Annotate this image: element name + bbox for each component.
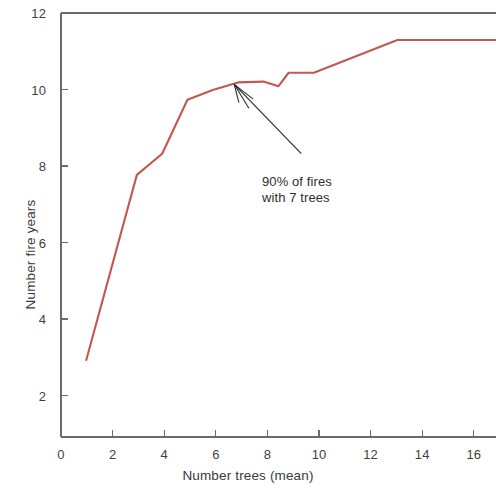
y-tick-label-10: 10: [18, 82, 46, 97]
x-tick-label-0: 0: [57, 447, 64, 462]
x-tick-label-16: 16: [466, 447, 481, 462]
x-tick-label-12: 12: [363, 447, 378, 462]
annotation-line-1: 90% of fires: [262, 174, 332, 190]
y-tick-marks: [61, 13, 68, 396]
y-axis-title: Number fire years: [23, 155, 38, 355]
chart-figure: 12 10 8 6 4 2 0 2 4 6 8 10 12 14 16 Numb…: [0, 0, 496, 491]
chart-plot-area: [0, 0, 496, 491]
x-tick-label-2: 2: [109, 447, 116, 462]
x-tick-marks: [61, 430, 474, 437]
y-tick-label-12: 12: [18, 6, 46, 21]
annotation-callout-text: 90% of fires with 7 trees: [262, 174, 332, 206]
x-tick-label-10: 10: [312, 447, 327, 462]
x-axis-title: Number trees (mean): [0, 468, 496, 483]
x-tick-label-6: 6: [212, 447, 219, 462]
annotation-arrow: [234, 84, 301, 153]
annotation-line-2: with 7 trees: [262, 190, 332, 206]
x-tick-label-8: 8: [264, 447, 271, 462]
x-tick-label-4: 4: [161, 447, 168, 462]
y-tick-label-2: 2: [18, 388, 46, 403]
x-tick-label-14: 14: [415, 447, 430, 462]
